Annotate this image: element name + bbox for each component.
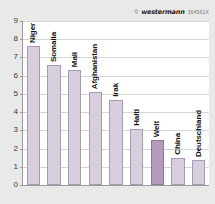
bar-somalia[interactable] <box>47 65 61 185</box>
y-axis-tick-label: 5 <box>14 90 18 98</box>
y-axis-tick-label: 8 <box>14 35 18 43</box>
y-axis-tick <box>20 57 23 58</box>
bar-deutschland[interactable] <box>192 160 206 185</box>
bar-afghanistan[interactable] <box>89 92 103 185</box>
y-axis-tick <box>20 21 23 22</box>
bar-label-china: China <box>174 133 182 155</box>
y-axis-tick-label: 4 <box>14 108 18 116</box>
figure-code: 364561X <box>188 9 209 15</box>
bar-mali[interactable] <box>68 70 82 185</box>
y-axis-tick-label: 1 <box>14 163 18 171</box>
bar-niger[interactable] <box>27 46 41 185</box>
y-axis-tick-label: 3 <box>14 126 18 134</box>
bar-welt[interactable] <box>151 140 165 185</box>
y-axis-tick-label: 0 <box>14 181 18 189</box>
copyright-symbol: © <box>134 9 138 15</box>
bar-label-afghanistan: Afghanistan <box>91 44 99 89</box>
bar-china[interactable] <box>171 158 185 185</box>
bar-chart: © westermann 364561X 0123456789 NigerSom… <box>0 0 215 204</box>
y-axis-tick <box>20 167 23 168</box>
y-axis-tick-label: 9 <box>14 17 18 25</box>
bar-label-haiti: Haiti <box>133 109 141 126</box>
y-axis-tick <box>20 76 23 77</box>
bar-label-somalia: Somalia <box>50 32 58 62</box>
copyright-credit: © westermann 364561X <box>134 8 209 16</box>
bar-label-welt: Welt <box>153 121 161 137</box>
y-axis-tick-label: 7 <box>14 53 18 61</box>
y-axis-tick <box>20 112 23 113</box>
bar-irak[interactable] <box>109 100 123 185</box>
bar-label-irak: Irak <box>112 83 120 97</box>
bar-haiti[interactable] <box>130 129 144 185</box>
y-axis-tick <box>20 149 23 150</box>
publisher-name: westermann <box>141 8 184 16</box>
plot-area: 0123456789 NigerSomaliaMaliAfghanistanIr… <box>22 21 209 186</box>
bar-label-deutschland: Deutschland <box>195 110 203 157</box>
y-axis-tick <box>20 185 23 186</box>
y-axis-tick <box>20 94 23 95</box>
y-axis-tick-label: 2 <box>14 145 18 153</box>
y-axis-tick-label: 6 <box>14 72 18 80</box>
bar-label-niger: Niger <box>29 23 37 43</box>
y-axis-tick <box>20 130 23 131</box>
gridline <box>23 21 209 22</box>
bar-label-mali: Mali <box>71 52 79 67</box>
y-axis-tick <box>20 39 23 40</box>
